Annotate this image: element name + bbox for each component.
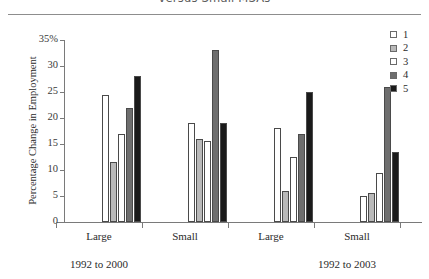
period-label: 1992 to 2000 bbox=[24, 258, 174, 270]
page-title: versus Small MSAs bbox=[0, 0, 429, 5]
bar-series-5 bbox=[306, 92, 313, 222]
y-axis-tick-label: 30 bbox=[18, 60, 58, 71]
bar-series-4 bbox=[212, 50, 219, 222]
chart-legend: 12345 bbox=[390, 28, 408, 96]
x-axis-category-label: Large bbox=[231, 230, 311, 242]
bar-series-5 bbox=[220, 123, 227, 222]
bar-series-4 bbox=[384, 87, 391, 222]
bar-series-2 bbox=[196, 139, 203, 222]
x-axis-tick bbox=[56, 222, 57, 228]
bar-series-1 bbox=[360, 196, 367, 222]
bar-series-3 bbox=[376, 173, 383, 222]
period-label: 1992 to 2003 bbox=[272, 258, 422, 270]
bar-series-3 bbox=[204, 141, 211, 222]
bar-group bbox=[102, 40, 142, 222]
y-axis-tick-label: 10 bbox=[18, 164, 58, 175]
legend-item-2[interactable]: 2 bbox=[390, 42, 408, 56]
bar-series-2 bbox=[282, 191, 289, 222]
y-axis-tick-label: 35% bbox=[18, 34, 58, 45]
title-divider bbox=[8, 14, 421, 15]
bar-series-4 bbox=[126, 108, 133, 222]
y-axis-tick bbox=[60, 222, 65, 223]
bar-series-5 bbox=[392, 152, 399, 222]
legend-item-3[interactable]: 3 bbox=[390, 55, 408, 69]
legend-swatch-icon bbox=[390, 31, 397, 38]
chart-title-block: versus Small MSAs bbox=[0, 0, 429, 5]
y-axis-tick-label: 0 bbox=[18, 216, 58, 227]
y-axis-tick-label: 15 bbox=[18, 138, 58, 149]
legend-item-label: 3 bbox=[403, 57, 408, 68]
x-axis-tick bbox=[142, 222, 143, 228]
bar-series-2 bbox=[110, 162, 117, 222]
legend-item-label: 2 bbox=[403, 43, 408, 54]
bar-group bbox=[274, 40, 314, 222]
legend-swatch-icon bbox=[390, 58, 397, 65]
bar-series-1 bbox=[274, 128, 281, 222]
legend-item-label: 5 bbox=[403, 84, 408, 95]
x-axis-tick bbox=[400, 222, 401, 228]
x-axis-tick bbox=[228, 222, 229, 228]
x-axis-category-label: Small bbox=[317, 230, 397, 242]
legend-item-label: 1 bbox=[403, 30, 408, 41]
legend-swatch-icon bbox=[390, 85, 397, 92]
bar-series-1 bbox=[102, 95, 109, 222]
legend-swatch-icon bbox=[390, 72, 397, 79]
x-axis-line bbox=[56, 222, 422, 223]
legend-swatch-icon bbox=[390, 45, 397, 52]
legend-item-1[interactable]: 1 bbox=[390, 28, 408, 42]
bar-series-3 bbox=[118, 134, 125, 222]
bar-group bbox=[188, 40, 228, 222]
bar-series-4 bbox=[298, 134, 305, 222]
legend-item-5[interactable]: 5 bbox=[390, 82, 408, 96]
plot-area bbox=[64, 40, 412, 222]
y-axis-tick-label: 20 bbox=[18, 112, 58, 123]
bar-series-1 bbox=[188, 123, 195, 222]
bar-series-2 bbox=[368, 193, 375, 222]
x-axis-category-label: Small bbox=[145, 230, 225, 242]
legend-item-label: 4 bbox=[403, 70, 408, 81]
y-axis-tick-label: 5 bbox=[18, 190, 58, 201]
x-axis-tick bbox=[314, 222, 315, 228]
legend-item-4[interactable]: 4 bbox=[390, 69, 408, 83]
x-axis-category-label: Large bbox=[59, 230, 139, 242]
y-axis-tick-label: 25 bbox=[18, 86, 58, 97]
bar-series-3 bbox=[290, 157, 297, 222]
bar-series-5 bbox=[134, 76, 141, 222]
